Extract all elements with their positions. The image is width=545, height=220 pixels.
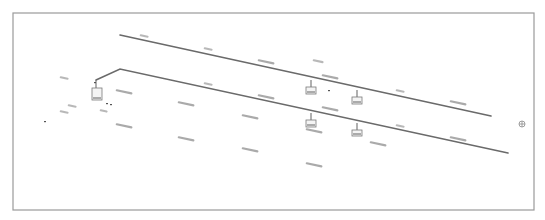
tag-label	[140, 34, 149, 38]
tag-label	[204, 47, 213, 51]
point-marker	[106, 103, 108, 104]
drop-left-end	[92, 80, 102, 100]
fixture-box-icon	[306, 120, 316, 127]
tag-label	[178, 136, 195, 142]
fixture-box-icon	[306, 87, 316, 94]
tag-label	[450, 100, 467, 106]
tag-label	[60, 110, 69, 114]
tag-label	[306, 128, 323, 134]
fixture-box-icon	[352, 130, 362, 136]
pipe-upper-run	[120, 35, 491, 116]
drop-upper-2	[352, 90, 362, 104]
pipe-runs	[96, 35, 508, 153]
drop-upper-1	[306, 80, 316, 94]
diagram-canvas	[0, 0, 545, 220]
tag-label	[60, 76, 69, 80]
tag-label	[242, 147, 259, 153]
drop-lower-2	[352, 123, 362, 136]
tag-label	[396, 89, 405, 93]
point-marker	[110, 104, 112, 105]
tag-label	[116, 123, 133, 129]
tag-label	[313, 59, 324, 63]
drop-lower-1	[306, 113, 316, 127]
tag-label	[116, 89, 133, 95]
tag-label	[204, 82, 213, 86]
tag-label	[242, 114, 259, 120]
tag-label	[100, 109, 108, 113]
tag-label	[322, 106, 339, 112]
tag-label	[68, 104, 77, 108]
fixture-box-icon	[352, 97, 362, 104]
tag-label	[370, 141, 387, 147]
tag-label	[396, 124, 405, 128]
tag-label	[306, 162, 323, 168]
point-marker	[94, 82, 96, 83]
pipe-lower-run	[96, 69, 508, 153]
point-marker	[328, 90, 330, 91]
tag-label	[178, 101, 195, 107]
tag-labels	[60, 34, 467, 168]
tag-label	[258, 59, 275, 65]
valve-symbol-icon	[519, 121, 525, 127]
point-marker	[44, 121, 46, 122]
point-markers	[44, 82, 330, 122]
drop-fittings	[92, 80, 362, 136]
drawing-frame	[13, 13, 534, 210]
